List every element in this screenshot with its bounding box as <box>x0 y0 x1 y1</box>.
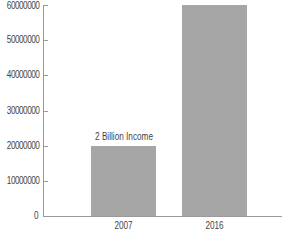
x-tick-label: 2016 <box>188 220 241 231</box>
y-tick-label: 30000000 <box>7 105 38 117</box>
y-tick-label: 20000000 <box>7 140 38 152</box>
y-tick <box>43 111 48 112</box>
y-tick <box>43 75 48 76</box>
y-tick <box>43 146 48 147</box>
bar-2007 <box>91 146 156 216</box>
y-tick <box>43 216 48 217</box>
y-tick-label: 60000000 <box>7 0 38 12</box>
y-tick <box>43 40 48 41</box>
bar-chart: 0 10000000 20000000 30000000 40000000 50… <box>0 0 282 236</box>
bar-2016 <box>182 5 247 216</box>
y-tick-label: 40000000 <box>7 69 38 81</box>
y-tick-label: 50000000 <box>7 34 38 46</box>
y-tick <box>43 181 48 182</box>
y-tick <box>43 5 48 6</box>
x-axis-line <box>43 216 282 217</box>
y-tick-label: 10000000 <box>7 175 38 187</box>
x-tick-label: 2007 <box>97 220 150 231</box>
y-tick-label: 0 <box>7 210 38 222</box>
bar-annotation: 2 Billion Income <box>90 131 159 142</box>
